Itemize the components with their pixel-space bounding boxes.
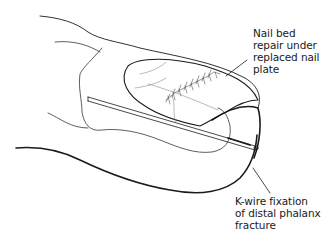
- nail-bed-sutures: [166, 70, 220, 104]
- label-k-wire-fixation: K-wire fixation of distal phalanx fractu…: [235, 195, 321, 231]
- label-line: K-wire fixation: [235, 195, 321, 207]
- label-line: plate: [253, 63, 319, 75]
- finger-palmar-outline: [16, 135, 257, 193]
- label-line: replaced nail: [253, 51, 319, 63]
- label-line: fracture: [235, 219, 321, 231]
- label-line: repair under: [253, 39, 319, 51]
- label-line: Nail bed: [253, 27, 319, 39]
- finger-dorsal-outline: [40, 16, 259, 108]
- k-wire: [88, 97, 258, 150]
- k-wire-leader-line: [253, 168, 270, 193]
- fracture-line: [172, 96, 176, 122]
- label-nail-bed-repair: Nail bed repair under replaced nail plat…: [253, 27, 319, 75]
- label-line: of distal phalanx: [235, 207, 321, 219]
- fingertip-outline: [212, 107, 260, 159]
- nail-plate-outline: [124, 59, 258, 126]
